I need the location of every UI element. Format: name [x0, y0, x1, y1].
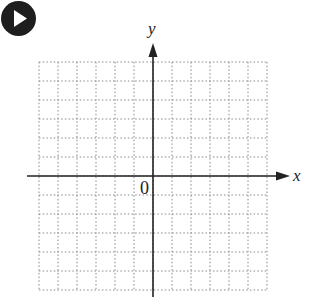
- x-axis-label: x: [293, 167, 301, 184]
- y-axis-label: y: [148, 20, 156, 37]
- origin-label: 0: [140, 179, 149, 197]
- y-axis-arrow-icon: [149, 43, 158, 57]
- y-axis: [149, 43, 158, 297]
- coordinate-plane: [0, 0, 315, 297]
- x-axis: [27, 172, 290, 181]
- x-axis-arrow-icon: [276, 172, 290, 181]
